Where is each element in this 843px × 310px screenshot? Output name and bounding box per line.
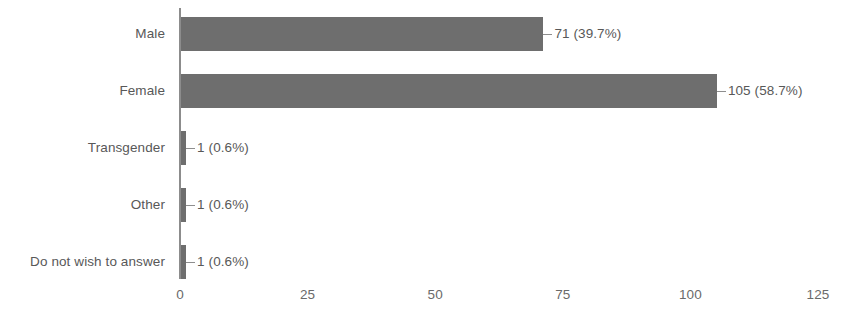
bar-value-label: 1 (0.6%) bbox=[197, 255, 249, 269]
bar bbox=[181, 17, 543, 51]
bar-chart: MaleFemaleTransgenderOtherDo not wish to… bbox=[0, 0, 843, 310]
x-tick-label: 50 bbox=[428, 288, 443, 302]
value-leader-line bbox=[717, 91, 726, 92]
value-leader-line bbox=[186, 205, 195, 206]
bar-value-label: 71 (39.7%) bbox=[554, 27, 621, 41]
x-tick-label: 100 bbox=[679, 288, 702, 302]
value-leader-line bbox=[186, 262, 195, 263]
x-tick-label: 25 bbox=[300, 288, 315, 302]
plot-area: 71 (39.7%)105 (58.7%)1 (0.6%)1 (0.6%)1 (… bbox=[0, 0, 843, 310]
bar-value-label: 1 (0.6%) bbox=[197, 141, 249, 155]
x-tick-label: 75 bbox=[555, 288, 570, 302]
x-tick-label: 125 bbox=[807, 288, 830, 302]
bar bbox=[181, 74, 717, 108]
value-leader-line bbox=[543, 34, 552, 35]
x-tick-label: 0 bbox=[176, 288, 184, 302]
bar-value-label: 105 (58.7%) bbox=[728, 84, 803, 98]
value-leader-line bbox=[186, 148, 195, 149]
bar-value-label: 1 (0.6%) bbox=[197, 198, 249, 212]
